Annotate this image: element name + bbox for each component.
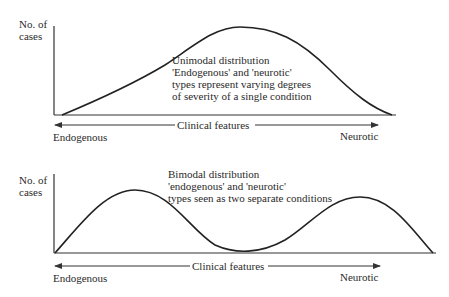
top-desc-line3: types represent varying degrees xyxy=(172,78,311,90)
bottom-ylabel-line2: cases xyxy=(19,186,42,198)
bottom-desc-line1: Bimodal distribution xyxy=(168,168,259,180)
bottom-desc-line2: 'endogenous' and 'neurotic' xyxy=(168,180,286,192)
top-left-label: Endogenous xyxy=(53,131,107,143)
top-right-label: Neurotic xyxy=(340,130,378,142)
bottom-desc-line3: types seen as two separate conditions xyxy=(168,192,332,204)
top-ylabel-line2: cases xyxy=(19,30,42,42)
bottom-ylabel-line1: No. of xyxy=(19,174,47,186)
top-axis-label: Clinical features xyxy=(177,119,249,131)
bottom-axis-label: Clinical features xyxy=(192,260,264,272)
top-ylabel-line1: No. of xyxy=(19,18,47,30)
diagram-canvas xyxy=(0,0,449,297)
top-desc-line2: 'Endogenous' and 'neurotic' xyxy=(172,66,292,78)
top-desc-line1: Unimodal distribution xyxy=(172,54,269,66)
bottom-left-label: Endogenous xyxy=(53,272,107,284)
top-desc-line4: of severity of a single condition xyxy=(172,90,312,102)
bottom-right-label: Neurotic xyxy=(340,271,378,283)
